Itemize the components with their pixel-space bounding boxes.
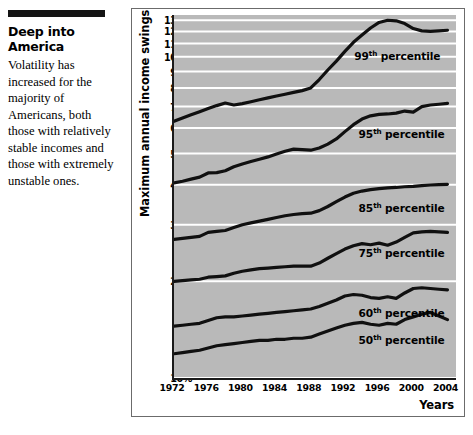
series-label-number: 99 (354, 49, 369, 61)
caption-rule (8, 10, 105, 17)
caption-column: Deep into America Volatility has increas… (8, 10, 116, 189)
series-label-number: 85 (359, 202, 374, 214)
caption-heading: Deep into America (8, 24, 116, 54)
series-label: 95th percentile (359, 127, 445, 140)
series-label: 99th percentile (354, 49, 440, 62)
x-axis-tick: 1996 (365, 382, 390, 393)
series-label-number: 60 (359, 307, 374, 319)
series-label-text: percentile (382, 246, 445, 258)
series-label-text: percentile (382, 128, 445, 140)
x-axis-tick: 1972 (160, 382, 185, 393)
series-line (174, 103, 447, 182)
series-label-ordinal: th (373, 306, 381, 315)
x-axis-tick: 1980 (228, 382, 253, 393)
series-label: 50th percentile (359, 333, 445, 346)
series-label-ordinal: th (373, 127, 381, 136)
plot-svg (174, 15, 456, 378)
plot-area: 99th percentile95th percentile85th perce… (172, 15, 456, 380)
series-label-number: 50 (359, 334, 374, 346)
series-label-text: percentile (382, 334, 445, 346)
series-label: 60th percentile (359, 306, 445, 319)
caption-body: Volatility has increased for the majorit… (8, 57, 116, 189)
x-axis-tick: 1976 (194, 382, 219, 393)
series-label-number: 95 (359, 128, 374, 140)
series-label-ordinal: th (373, 333, 381, 342)
chart-frame: Maximum annual income swings 130%120%110… (131, 8, 465, 417)
x-axis-tick: 2004 (433, 382, 458, 393)
x-axis-tick: 1984 (262, 382, 287, 393)
series-label-text: percentile (377, 49, 440, 61)
series-label: 75th percentile (359, 246, 445, 259)
series-label-ordinal: th (373, 246, 381, 255)
series-label-text: percentile (382, 307, 445, 319)
x-axis-tick: 1992 (330, 382, 355, 393)
x-axis-tick: 1988 (296, 382, 321, 393)
series-label: 85th percentile (359, 201, 445, 214)
series-label-text: percentile (382, 202, 445, 214)
series-label-number: 75 (359, 246, 374, 258)
x-axis-tick-labels: 197219761980198419881992199620002004 (172, 382, 456, 396)
series-label-ordinal: th (373, 201, 381, 210)
x-axis-title: Years (419, 398, 454, 412)
x-axis-tick: 2000 (399, 382, 424, 393)
series-label-ordinal: th (369, 49, 377, 58)
